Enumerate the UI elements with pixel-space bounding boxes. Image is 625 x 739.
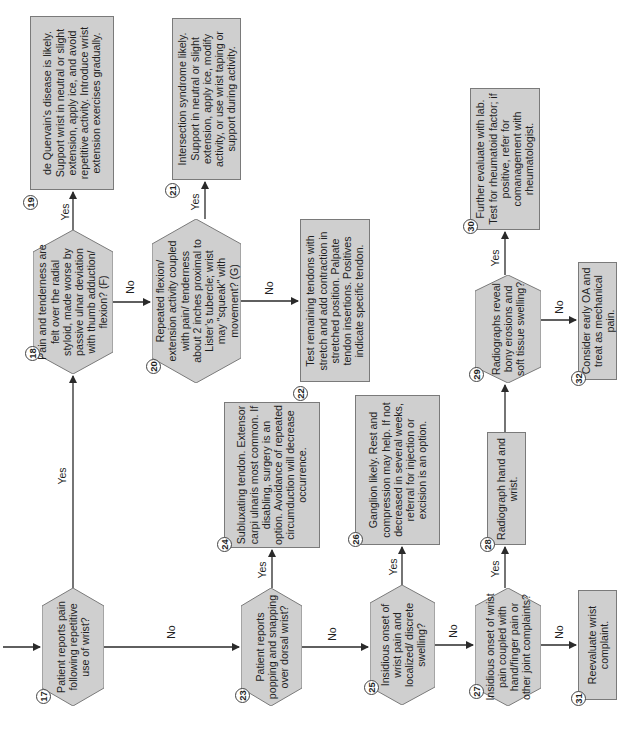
node-31-number: 31 xyxy=(571,691,586,706)
node-24-text: Subluxating tendon. Extensor carpi ulnar… xyxy=(235,405,308,545)
edge-label-17-no: No xyxy=(165,625,177,638)
action-node-19: de Quervain's disease is likely. Support… xyxy=(30,16,114,190)
action-node-21: Intersection syndrome likely. Support in… xyxy=(172,18,241,180)
action-node-32: Consider early OA and treat as mechanica… xyxy=(578,262,617,380)
node-19-number: 19 xyxy=(23,195,38,210)
edge-label-17-yes: Yes xyxy=(56,467,68,484)
node-21-text: Intersection syndrome likely. Support in… xyxy=(176,21,237,177)
node-19-text: de Quervain's disease is likely. Support… xyxy=(41,20,102,186)
node-21-number: 21 xyxy=(165,183,180,198)
action-node-24: Subluxating tendon. Extensor carpi ulnar… xyxy=(224,402,320,548)
node-22-text: Test remaining tendons with stretch and … xyxy=(304,223,365,379)
action-node-30: Further evaluate with lab. Test for rheu… xyxy=(470,88,540,230)
decision-node-27: Insidious onset of wrist pain coupled wi… xyxy=(475,588,541,706)
edge-label-25-no: No xyxy=(447,624,459,637)
node-32-text: Consider early OA and treat as mechanica… xyxy=(579,264,616,378)
node-18-number: 18 xyxy=(25,346,40,361)
node-29-number: 29 xyxy=(469,367,484,382)
edge-label-29-yes: Yes xyxy=(489,249,501,266)
edge-label-18-yes: Yes xyxy=(59,203,71,220)
node-31-text: Reevaluate wrist complaint. xyxy=(585,593,609,697)
node-27-text: Insidious onset of wrist pain coupled wi… xyxy=(484,593,533,701)
edge-label-18-no: No xyxy=(124,280,136,293)
decision-node-20: Repeated flexion/ extension activity cou… xyxy=(152,219,241,383)
decision-node-29: Radiographs reveal bony erosions and sof… xyxy=(475,275,541,383)
node-26-text: Ganglion likely. Rest and compression ma… xyxy=(367,398,428,542)
node-28-text: Radiograph hand and wrist. xyxy=(494,435,518,543)
edge-label-20-yes: Yes xyxy=(189,193,201,210)
node-23-number: 23 xyxy=(235,688,250,703)
node-24-number: 24 xyxy=(217,537,232,552)
node-30-text: Further evaluate with lab. Test for rheu… xyxy=(474,91,535,227)
node-25-text: Insidious onset of wrist pain and locali… xyxy=(378,592,427,698)
action-node-28: Radiograph hand and wrist. 28 xyxy=(487,432,526,545)
edge-label-25-yes: Yes xyxy=(387,558,399,575)
decision-node-23: Patient reports popping and snapping ove… xyxy=(241,588,302,706)
action-node-31: Reevaluate wrist complaint. 31 xyxy=(578,590,617,700)
node-25-number: 25 xyxy=(364,680,379,695)
wrist-pain-flowchart: Yes No Yes No Yes No Yes No Yes No Yes N… xyxy=(0,0,625,739)
edge-label-20-no: No xyxy=(263,281,275,294)
edge-label-27-no: No xyxy=(553,625,565,638)
edge-label-27-yes: Yes xyxy=(489,560,501,577)
edge-label-29-no: No xyxy=(553,300,565,313)
edge-label-23-yes: Yes xyxy=(256,561,268,578)
node-22-number: 22 xyxy=(293,386,308,401)
node-30-number: 30 xyxy=(463,219,478,234)
node-32-number: 32 xyxy=(571,371,586,386)
node-17-text: Patient reports pain following repetitiv… xyxy=(55,594,92,700)
node-29-text: Radiographs reveal bony erosions and sof… xyxy=(490,281,527,377)
decision-node-18: Pain and tenderness are felt over the ra… xyxy=(33,230,113,374)
node-23-text: Patient reports popping and snapping ove… xyxy=(253,594,290,700)
node-28-number: 28 xyxy=(480,537,495,552)
decision-node-17: Patient reports pain following repetitiv… xyxy=(42,588,104,706)
decision-node-25: Insidious onset of wrist pain and locali… xyxy=(370,585,435,705)
node-27-number: 27 xyxy=(469,684,484,699)
node-18-text: Pain and tenderness are felt over the ra… xyxy=(36,243,109,361)
edge-label-23-no: No xyxy=(326,627,338,640)
node-20-number: 20 xyxy=(146,359,161,374)
node-26-number: 26 xyxy=(348,532,363,547)
action-node-22: Test remaining tendons with stretch and … xyxy=(300,219,370,382)
action-node-26: Ganglion likely. Rest and compression ma… xyxy=(355,395,440,545)
node-17-number: 17 xyxy=(36,689,51,704)
node-20-text: Repeated flexion/ extension activity cou… xyxy=(154,239,239,363)
